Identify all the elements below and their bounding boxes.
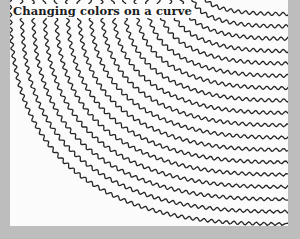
wavy-curves-plot	[10, 0, 288, 226]
wavy-curve	[202, 0, 288, 16]
figure-page: Changing colors on a curve	[10, 0, 288, 226]
wavy-curve	[20, 0, 288, 213]
wavy-curve	[43, 0, 288, 188]
scan-frame: Changing colors on a curve	[0, 0, 300, 239]
wavy-curve	[77, 0, 288, 151]
figure-title: Changing colors on a curve	[13, 4, 194, 18]
wavy-curve	[10, 0, 288, 226]
